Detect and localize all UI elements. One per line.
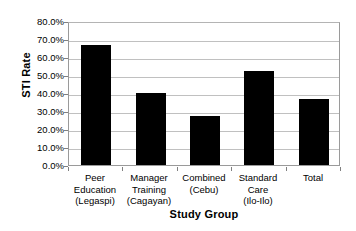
x-axis-category-label: Total (286, 172, 340, 184)
y-axis-tick-label: 20.0% (24, 125, 64, 135)
x-axis-category-label: StandardCare(Ilo-Ilo) (231, 172, 285, 207)
bar-series (69, 23, 339, 165)
x-axis-tick-mark (122, 167, 123, 171)
y-axis-tick-label: 0.0% (24, 161, 64, 171)
x-axis-tick-mark (340, 167, 341, 171)
bar (190, 116, 220, 165)
x-axis-category-label-line: Training (122, 184, 176, 196)
x-axis-tick-mark (231, 167, 232, 171)
x-axis-category-label-line: Manager (122, 172, 176, 184)
x-axis-category-label-line: Peer (68, 172, 122, 184)
y-axis-tick-label: 40.0% (24, 89, 64, 99)
x-axis-tick-mark (177, 167, 178, 171)
x-axis-category-label: Combined(Cebu) (177, 172, 231, 195)
x-axis-category-label-line: Education (68, 184, 122, 196)
x-axis-category-label-line: (Cagayan) (122, 195, 176, 207)
x-axis-category-label: ManagerTraining(Cagayan) (122, 172, 176, 207)
bar (244, 71, 274, 165)
y-axis-tick-labels: 80.0%70.0%60.0%50.0%40.0%30.0%20.0%10.0%… (24, 14, 64, 174)
x-axis-category-label: PeerEducation(Legaspi) (68, 172, 122, 207)
y-axis-tick-label: 10.0% (24, 143, 64, 153)
x-axis-category-label-line: Combined (177, 172, 231, 184)
y-axis-tick-label: 30.0% (24, 107, 64, 117)
x-axis-category-label-line: (Ilo-Ilo) (231, 195, 285, 207)
bar (81, 45, 111, 165)
y-axis-tick-label: 80.0% (24, 17, 64, 27)
plot-area (68, 22, 340, 166)
y-axis-tick-label: 70.0% (24, 35, 64, 45)
x-axis-category-label-line: Total (286, 172, 340, 184)
bar (136, 93, 166, 165)
x-axis-category-label-line: Care (231, 184, 285, 196)
x-axis-tick-mark (286, 167, 287, 171)
x-axis-tick-mark (68, 167, 69, 171)
chart-figure: STI Rate 80.0%70.0%60.0%50.0%40.0%30.0%2… (0, 0, 356, 231)
bar (299, 99, 329, 165)
x-axis-title: Study Group (68, 208, 340, 220)
y-axis-tick-label: 50.0% (24, 71, 64, 81)
x-axis-category-label-line: (Legaspi) (68, 195, 122, 207)
y-axis-tick-label: 60.0% (24, 53, 64, 63)
x-axis-category-label-line: Standard (231, 172, 285, 184)
x-axis-category-label-line: (Cebu) (177, 184, 231, 196)
